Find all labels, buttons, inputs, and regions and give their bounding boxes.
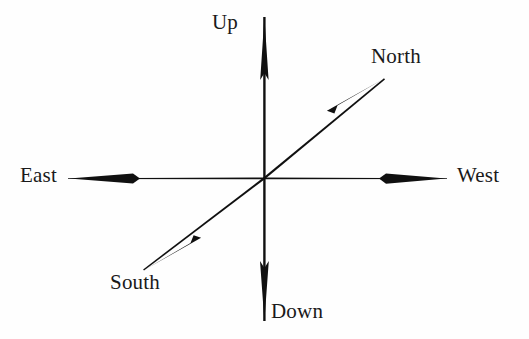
north-axis-arrow [263, 78, 385, 179]
up-arrowhead-icon [260, 17, 268, 80]
up-axis-arrow [260, 17, 268, 178]
east-arrowhead-icon [69, 174, 140, 184]
compass-axes-figure: Up Down East West North South [0, 0, 529, 339]
north-axis-shaft [263, 78, 385, 179]
axes-vector-graphic [0, 0, 529, 339]
west-axis-arrow [264, 173, 447, 183]
axis-label-up: Up [212, 12, 238, 33]
axis-label-east: East [20, 165, 57, 186]
south-arrowhead-icon [145, 235, 202, 270]
south-axis-arrow [143, 178, 265, 271]
east-axis-arrow [68, 174, 264, 184]
axis-label-down: Down [271, 301, 323, 322]
down-axis-arrow [260, 178, 269, 321]
axis-label-north: North [371, 46, 421, 67]
south-axis-shaft [143, 178, 265, 271]
down-arrowhead-icon [260, 261, 269, 321]
axis-label-west: West [457, 165, 499, 186]
axis-label-south: South [110, 272, 160, 293]
north-arrowhead-icon [327, 79, 384, 113]
west-arrowhead-icon [379, 173, 446, 183]
